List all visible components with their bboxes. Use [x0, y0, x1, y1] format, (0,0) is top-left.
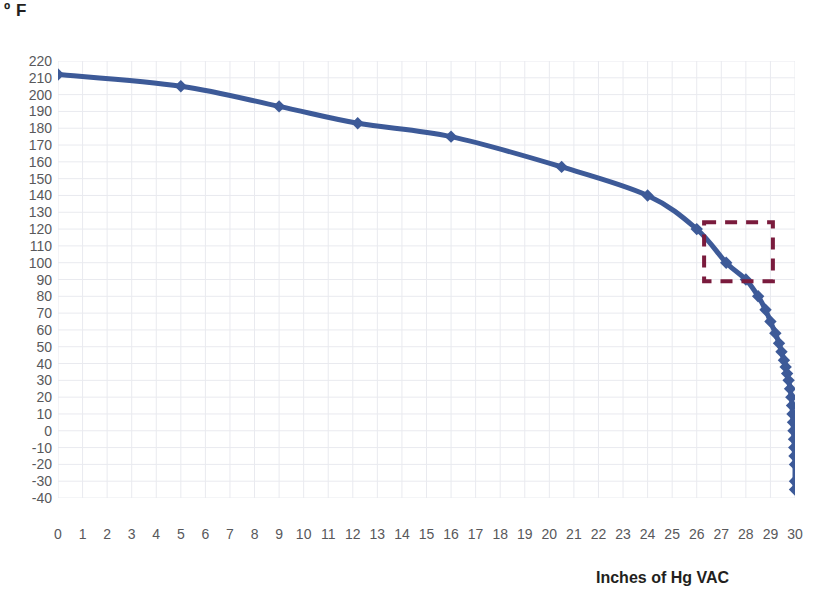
y-axis-tick-label: 160	[4, 155, 52, 169]
x-axis-tick-label: 23	[615, 527, 631, 541]
grid-lines	[58, 61, 795, 498]
x-axis-tick-label: 11	[321, 527, 336, 541]
y-axis-tick-label: 190	[4, 104, 52, 118]
y-axis-tick-label: 30	[4, 373, 52, 387]
y-axis-tick-label: 60	[4, 323, 52, 337]
data-point-marker	[445, 130, 457, 142]
y-axis-tick-label: -10	[4, 441, 52, 455]
x-axis-tick-label: 0	[54, 527, 62, 541]
plot-svg	[58, 61, 795, 498]
y-axis-tick-label: 100	[4, 256, 52, 270]
y-axis-tick-label: 130	[4, 205, 52, 219]
chart-figure: º F 220210200190180170160150140130120110…	[0, 0, 817, 604]
y-axis-tick-label: 150	[4, 172, 52, 186]
x-axis-tick-label: 24	[640, 527, 656, 541]
y-axis-tick-label: 20	[4, 390, 52, 404]
x-axis-tick-label: 17	[468, 527, 484, 541]
y-axis-tick-label: 40	[4, 357, 52, 371]
data-point-marker	[175, 80, 187, 92]
y-axis-tick-label: 220	[4, 54, 52, 68]
x-axis-tick-label: 4	[152, 527, 160, 541]
y-axis-tick-label: -20	[4, 457, 52, 471]
y-axis-tick-label: -30	[4, 474, 52, 488]
y-axis-tick-label: 0	[4, 424, 52, 438]
x-axis-tick-label: 19	[517, 527, 533, 541]
y-axis-tick-label: 80	[4, 289, 52, 303]
x-axis-tick-label: 27	[714, 527, 730, 541]
y-axis-tick-label: 120	[4, 222, 52, 236]
x-axis-tick-label: 15	[419, 527, 435, 541]
x-axis-tick-label: 12	[345, 527, 361, 541]
data-point-marker	[273, 100, 285, 112]
x-axis-tick-label: 1	[79, 527, 87, 541]
x-axis-tick-label: 7	[226, 527, 234, 541]
y-axis-tick-label: -40	[4, 491, 52, 505]
x-axis-tick-label: 26	[689, 527, 705, 541]
x-axis-tick-label: 8	[251, 527, 259, 541]
x-axis-tick-label: 9	[275, 527, 283, 541]
x-axis-tick-label: 5	[177, 527, 185, 541]
y-axis-tick-label: 200	[4, 88, 52, 102]
data-point-marker	[352, 117, 364, 129]
x-axis-tick-label: 29	[763, 527, 779, 541]
x-axis-title: Inches of Hg VAC	[596, 569, 729, 587]
y-axis-tick-label: 10	[4, 407, 52, 421]
x-axis-tick-label: 20	[542, 527, 558, 541]
x-axis-tick-label: 2	[103, 527, 111, 541]
x-axis-tick-label: 16	[443, 527, 459, 541]
plot-area	[58, 61, 795, 498]
x-axis-tick-label: 25	[664, 527, 680, 541]
x-axis-tick-label: 3	[128, 527, 136, 541]
x-axis-tick-label: 13	[370, 527, 386, 541]
y-axis-tick-label: 210	[4, 71, 52, 85]
y-axis-tick-label: 90	[4, 273, 52, 287]
y-axis-tick-label: 170	[4, 138, 52, 152]
data-point-marker	[58, 68, 64, 80]
y-axis-tick-label: 180	[4, 121, 52, 135]
x-axis-tick-label: 14	[394, 527, 410, 541]
x-axis-tick-label: 22	[591, 527, 607, 541]
x-axis-tick-label: 28	[738, 527, 754, 541]
x-axis-tick-label: 30	[787, 527, 803, 541]
data-point-marker	[789, 483, 795, 495]
x-axis-tick-label: 10	[296, 527, 312, 541]
y-axis-tick-labels: 2202102001901801701601501401301201101009…	[0, 0, 52, 604]
y-axis-tick-label: 110	[4, 239, 52, 253]
data-point-marker	[555, 161, 567, 173]
x-axis-tick-labels: 0123456789101112131415161718192021222324…	[0, 527, 817, 549]
y-axis-tick-label: 140	[4, 188, 52, 202]
data-point-marker	[789, 458, 795, 470]
x-axis-tick-label: 18	[492, 527, 508, 541]
x-axis-tick-label: 21	[566, 527, 582, 541]
x-axis-tick-label: 6	[201, 527, 209, 541]
y-axis-tick-label: 70	[4, 306, 52, 320]
y-axis-tick-label: 50	[4, 340, 52, 354]
